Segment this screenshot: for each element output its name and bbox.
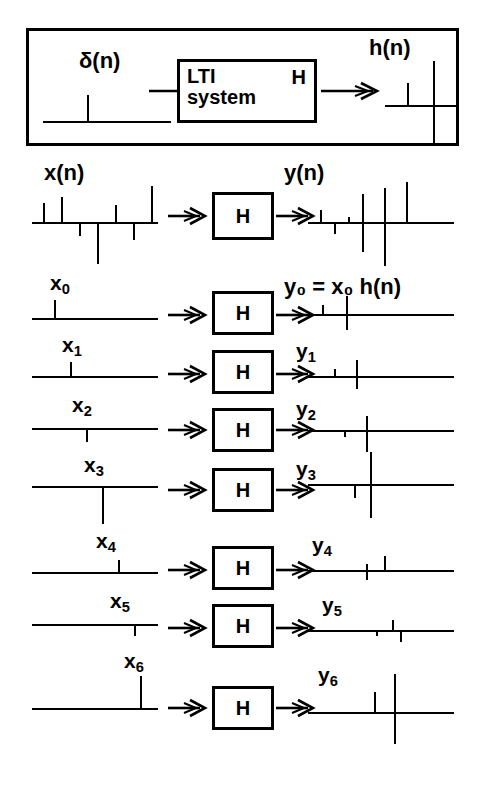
h-block: H [212, 604, 274, 648]
input-label-x2: x2 [72, 394, 92, 419]
stem-x2 [86, 428, 88, 442]
stem-x3 [97, 222, 99, 264]
stem-x1 [70, 362, 72, 376]
stem-y5 [384, 188, 386, 222]
stem-y4-b [384, 556, 386, 570]
stem-y4-c [366, 570, 368, 580]
stem-y3-c [370, 484, 372, 518]
stem-x6 [140, 676, 142, 708]
stem-y5-b [392, 620, 394, 630]
axis-line [308, 222, 454, 224]
arrow-right-icon [321, 79, 383, 103]
stem-y6-c [394, 712, 396, 744]
stem-x0 [54, 300, 56, 318]
stem-y3-b [370, 452, 372, 484]
axis-line [32, 428, 158, 430]
stem-y2-c [366, 430, 368, 452]
lti-system-box: LTI system H [177, 59, 317, 123]
stem-y3 [362, 194, 364, 222]
h-block: H [212, 686, 274, 730]
stem-h0 [407, 83, 409, 107]
stem-x4 [118, 560, 120, 572]
stem-y7 [406, 182, 408, 222]
stem-x4 [115, 205, 117, 222]
stem-y1 [334, 222, 336, 234]
output-stem-plot-y4 [308, 550, 458, 588]
input-signal-label: x(n) [44, 162, 84, 184]
lti-definition-frame: δ(n) LTI system H h(n) [26, 28, 459, 146]
input-stem-plot-x5 [32, 614, 162, 648]
input-label-x5: x5 [110, 590, 130, 615]
lti-system-label: LTI system [187, 66, 256, 108]
axis-line [308, 630, 454, 632]
input-stem-plot-x1 [32, 358, 162, 388]
output-stem-plot-y1 [308, 354, 458, 394]
axis-line [308, 712, 454, 714]
arrow-right-icon [168, 558, 210, 582]
stem-y2 [348, 217, 350, 222]
output-stem-plot-y6 [308, 670, 458, 746]
input-stem-plot-x0 [32, 296, 162, 330]
axis-line [32, 708, 158, 710]
stem-y3-a [354, 484, 356, 498]
arrow-right-icon [168, 418, 210, 442]
axis-line [32, 572, 158, 574]
input-label-x4: x4 [96, 530, 116, 555]
stem-y0-c [346, 314, 348, 330]
arrow-right-icon [168, 616, 210, 640]
stem-x3 [102, 486, 104, 524]
output-signal-stem-plot [308, 180, 458, 266]
axis-line [308, 570, 454, 572]
axis-line [32, 486, 158, 488]
stem-x0 [43, 203, 45, 222]
h-block-label: H [236, 205, 250, 228]
axis-line [308, 314, 454, 316]
stem-y1-b [356, 360, 358, 376]
stem-x1 [61, 197, 63, 222]
stem-y0-b [346, 296, 348, 314]
stem-x5 [134, 624, 136, 636]
stem-y4 [362, 222, 364, 252]
input-label-x1: x1 [62, 334, 82, 359]
stem-y2-a [344, 430, 346, 437]
input-stem-plot-x2 [32, 418, 162, 452]
input-label-x3: x3 [84, 454, 104, 479]
input-signal-stem-plot [32, 186, 162, 264]
h-block: H [212, 350, 274, 394]
arrow-right-icon [168, 696, 210, 720]
stem-y0-a [322, 305, 324, 314]
h-block: H [212, 291, 274, 335]
stem-y1-a [334, 369, 336, 376]
h-block: H [212, 192, 274, 240]
output-stem-plot-y0 [308, 292, 458, 336]
stem-y5-a [376, 630, 378, 636]
axis-line [308, 430, 454, 432]
h-block-label: H [236, 615, 250, 638]
stem-y5-c [400, 630, 402, 642]
h-block-label: H [236, 361, 250, 384]
h-block: H [212, 408, 274, 452]
output-stem-plot-y5 [308, 612, 458, 650]
output-stem-plot-y3 [308, 452, 458, 518]
h-block: H [212, 546, 274, 590]
axis-line [308, 484, 454, 486]
axis-line [308, 376, 454, 378]
input-label-x0: x0 [50, 272, 70, 297]
output-stem-plot-y2 [308, 412, 458, 456]
h-block-label: H [236, 419, 250, 442]
axis-line [43, 121, 171, 123]
h-block-label: H [236, 302, 250, 325]
input-stem-plot-x6 [32, 672, 162, 716]
input-stem-plot-x3 [32, 478, 162, 526]
stem-y2-b [366, 416, 368, 430]
stem-impulse [87, 95, 89, 123]
arrow-right-icon [168, 303, 210, 327]
axis-line [32, 376, 158, 378]
axis-line [32, 222, 158, 224]
input-stem-plot-x4 [32, 554, 162, 584]
stem-y6 [384, 222, 386, 266]
axis-line [32, 318, 158, 320]
stem-x2 [79, 222, 81, 236]
h-block-label: H [236, 479, 250, 502]
impulse-response-label: h(n) [369, 37, 411, 59]
